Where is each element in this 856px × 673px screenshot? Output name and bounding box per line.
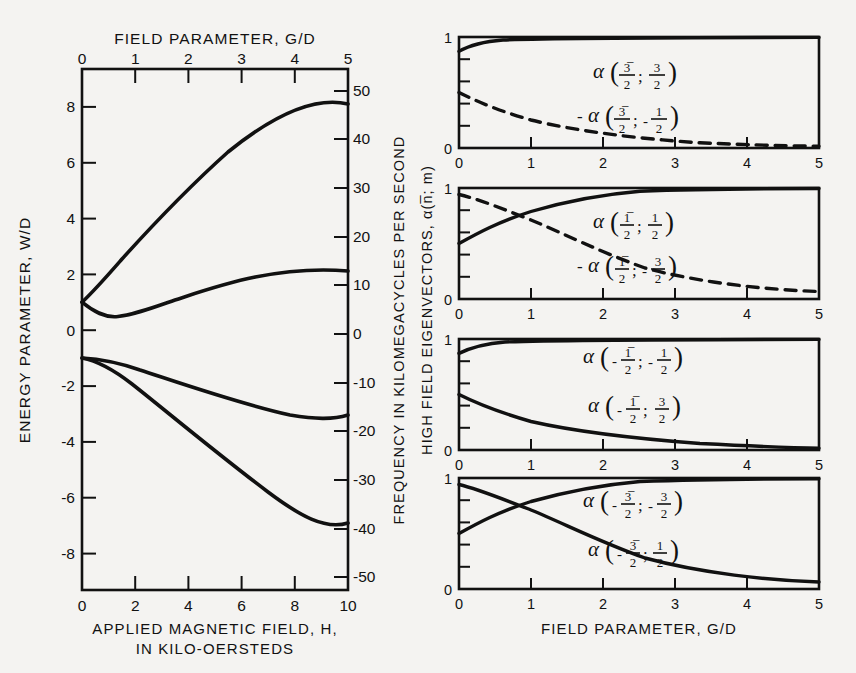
panel-2-frame [459,188,819,299]
left-y-ticks [82,107,96,554]
right-panels-axis-title: HIGH FIELD EIGENVECTORS, α(n̅; m) [419,165,435,455]
left-top-ticks [82,69,348,83]
tick-label: 1 [131,50,140,67]
panel-2-xtick-labels: 0 1 2 3 4 5 [455,306,823,322]
panel-3-ytick-1: 1 [444,332,452,348]
energy-curves [82,102,348,525]
tick-label: -20 [353,422,376,439]
denominator: 2 [624,227,631,242]
tick-label: -2 [61,377,75,394]
denominator: 2 [657,555,664,570]
tick-label: 2 [131,597,140,614]
numerator: 1 [661,345,668,360]
panel-4-ytick-1: 1 [444,471,452,487]
right-panels-x-axis-title: FIELD PARAMETER, G/D [541,620,737,637]
tick-label: 10 [339,597,357,614]
denominator: 2 [625,506,632,521]
minus-sign: - [648,498,653,514]
left-bottom-ticks [82,576,348,590]
tick-label: -40 [353,520,376,537]
tick-label: 0 [455,155,463,171]
numerator: 1̅ [630,394,641,409]
left-bottom-axis-title-line1: APPLIED MAGNETIC FIELD, H, [92,620,337,637]
left-plot-frame [82,69,348,590]
numerator: 3̅ [619,104,630,119]
tick-label: 3 [671,457,679,473]
semicolon: ; [638,67,643,86]
tick-label: 10 [353,276,371,293]
panel-4-ytick-0: 0 [444,582,452,598]
right-panels-group: HIGH FIELD EIGENVECTORS, α(n̅; m) 1 [419,30,823,637]
denominator: 2 [656,121,663,136]
panel-2-xticks [531,288,747,299]
tick-label: 2 [599,457,607,473]
panel-3-label-upper: α ( - 1̅ 2 ; - 1 2 ) [583,342,683,377]
denominator: 2 [625,362,632,377]
tick-label: 1 [527,155,535,171]
panel-3-xtick-labels: 0 1 2 3 4 5 [455,457,823,473]
tick-label: 4 [290,50,299,67]
eigenvector-panel-2: 1 0 0 1 2 3 4 5 α ( 1̅ 2 [444,181,823,322]
tick-label: 4 [184,597,193,614]
numerator: 3 [655,254,662,269]
eigenvector-panel-4: 1 0 0 1 2 3 4 5 α ( - 3̅ [444,471,823,612]
alpha-glyph: α [588,393,600,417]
denominator: 2 [661,362,668,377]
semicolon: ; [643,545,648,564]
minus-sign: - [617,546,622,562]
paren-open-icon: ( [605,391,614,421]
numerator: 1 [656,104,663,119]
panel-1-curve-solid [459,37,819,51]
tick-label: 4 [743,306,751,322]
denominator: 2 [655,271,662,286]
panel-2-ytick-1: 1 [444,181,452,197]
numerator: 3 [659,394,666,409]
tick-label: 5 [815,155,823,171]
paren-open-icon: ( [605,535,614,565]
alpha-glyph: α [588,103,600,127]
tick-label: 0 [455,306,463,322]
panel-1-frame [459,37,819,148]
minus-sign: - [577,257,583,276]
minus-sign: - [643,113,648,129]
numerator: 1̅ [624,210,635,225]
numerator: 3 [654,60,661,75]
left-top-axis-title: FIELD PARAMETER, G/D [114,30,316,47]
tick-label: 2 [184,50,193,67]
tick-label: -4 [61,433,75,450]
tick-label: -10 [353,374,376,391]
panel-2-ytick-0: 0 [444,292,452,308]
semicolon: ; [638,496,643,515]
paren-close-icon: ) [674,342,683,372]
numerator: 3̅ [624,60,635,75]
tick-label: 2 [66,266,75,283]
panel-2-label-dashed: - α ( 1̅ 2 ; - 3 2 ) [577,251,677,286]
panel-3-ytick-0: 0 [444,443,452,459]
tick-label: 30 [353,179,371,196]
tick-label: -8 [61,545,75,562]
alpha-glyph: α [588,537,600,561]
denominator: 2 [630,555,637,570]
tick-label: 0 [455,596,463,612]
tick-label: 50 [353,82,371,99]
tick-label: 0 [66,322,75,339]
tick-label: 4 [743,596,751,612]
tick-label: 20 [353,228,371,245]
tick-label: 2 [599,306,607,322]
paren-close-icon: ) [672,391,681,421]
denominator: 2 [659,411,666,426]
numerator: 3̅ [630,538,641,553]
panel-1-xtick-labels: 0 1 2 3 4 5 [455,155,823,171]
curve-upper-branch [82,102,348,302]
left-y-axis-title: ENERGY PARAMETER, W/D [16,217,33,444]
numerator: 1 [652,210,659,225]
minus-sign: - [577,107,583,126]
paren-open-icon: ( [600,486,609,516]
denominator: 2 [654,77,661,92]
tick-label: 2 [599,155,607,171]
eigenvector-panel-3: 1 0 0 1 2 3 4 5 α ( - 1̅ [444,332,823,473]
panel-3-curve-lower [459,395,819,449]
semicolon: ; [638,352,643,371]
figure-root: FIELD PARAMETER, G/D 0 1 2 3 4 5 [0,0,856,673]
paren-open-icon: ( [610,207,619,237]
